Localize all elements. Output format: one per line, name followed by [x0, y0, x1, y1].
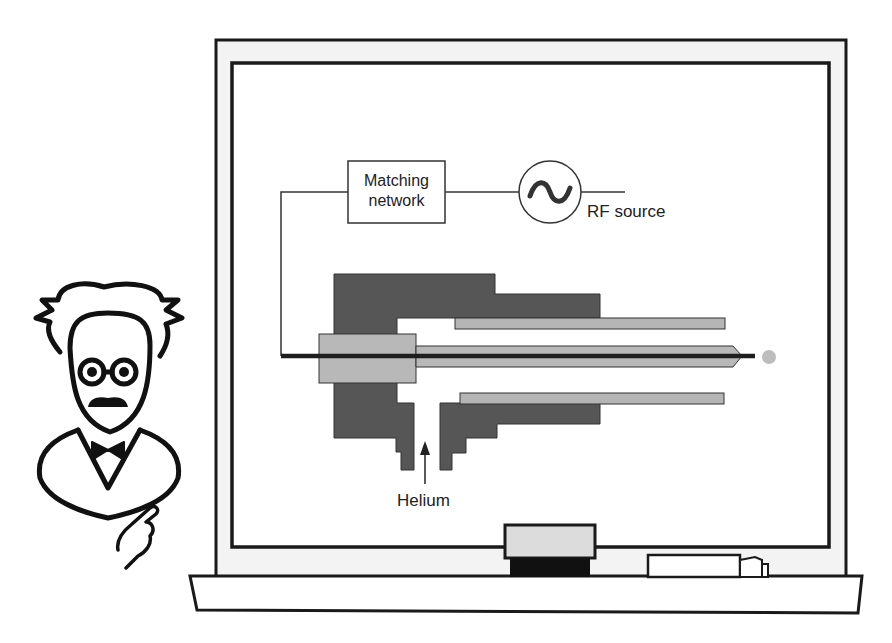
- whiteboard-scene: Matching network RF source Helium: [0, 0, 892, 643]
- scene-svg: [0, 0, 892, 643]
- rf-source-label: RF source: [587, 203, 665, 220]
- rf-source-icon: [519, 161, 581, 223]
- plasma-dot: [762, 350, 776, 364]
- matching-network-label-line2: network: [348, 191, 445, 211]
- professor-icon: [36, 284, 182, 568]
- eraser-icon: [505, 525, 595, 577]
- matching-network-label: Matching network: [348, 171, 445, 211]
- helium-label: Helium: [397, 492, 450, 509]
- matching-network-label-line1: Matching: [348, 171, 445, 191]
- marker-icon: [648, 555, 768, 577]
- whiteboard-tray: [190, 576, 862, 613]
